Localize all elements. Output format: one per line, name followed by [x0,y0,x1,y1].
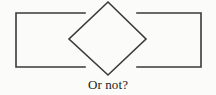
figure-container: Or not? [0,0,216,95]
figure-caption: Or not? [0,77,216,92]
